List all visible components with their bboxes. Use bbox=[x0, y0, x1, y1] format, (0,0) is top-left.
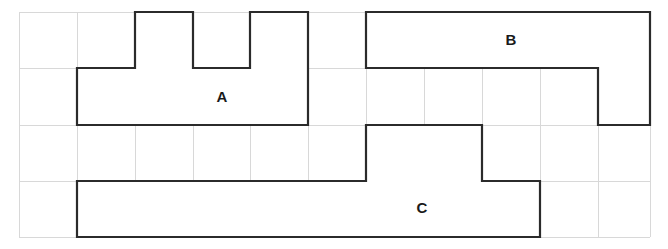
figure-canvas: ABC bbox=[0, 0, 668, 249]
shape-label-b: B bbox=[506, 31, 517, 48]
shape-b bbox=[366, 12, 650, 125]
shapes-on-grid-diagram: ABC bbox=[0, 0, 668, 249]
shape-a bbox=[77, 12, 308, 125]
shape-label-c: C bbox=[417, 199, 428, 216]
shapes-group bbox=[77, 12, 650, 237]
shape-label-a: A bbox=[217, 88, 228, 105]
